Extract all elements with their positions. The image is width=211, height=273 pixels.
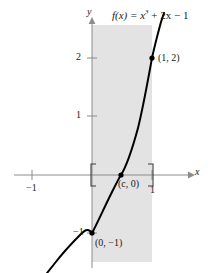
point-label-0-neg1: (0, −1): [95, 238, 122, 248]
function-expression-label: f(x) = x3 + 2x − 1: [112, 9, 189, 21]
x-tick-label-neg1: −1: [26, 183, 37, 193]
point-marker-1-2: [149, 55, 154, 60]
y-axis-arrow: [89, 17, 96, 24]
plot-canvas: [0, 0, 211, 273]
function-expression-main: f(x) = x: [112, 9, 145, 21]
point-marker-0-neg1: [89, 230, 94, 235]
y-tick-label-1: 1: [76, 110, 81, 120]
point-label-1-2: (1, 2): [158, 53, 180, 63]
x-tick-label-1: 1: [150, 185, 155, 195]
point-marker-c-0: [118, 172, 123, 177]
function-expression-rest: + 2x − 1: [149, 9, 189, 21]
y-axis-label: y: [87, 7, 91, 17]
graph-figure: f(x) = x3 + 2x − 1 y x 2 1 −1 −1 1 (1, 2…: [0, 0, 211, 273]
shaded-interval-band: [92, 25, 152, 262]
x-axis-label: x: [195, 167, 199, 177]
point-label-c-0: (c, 0): [118, 179, 139, 189]
y-tick-label-2: 2: [76, 52, 81, 62]
x-axis-arrow: [188, 172, 195, 179]
y-tick-label-neg1: −1: [73, 227, 84, 237]
